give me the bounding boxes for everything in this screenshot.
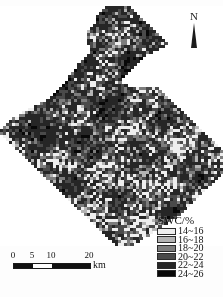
- legend-swatch-14-16: [157, 228, 176, 235]
- legend-swatch-24-26: [157, 270, 176, 277]
- scale-bar: 0 5 10 20 km: [13, 251, 123, 269]
- scale-tick-10: 10: [47, 251, 56, 260]
- legend-swatch-20-22: [157, 253, 176, 260]
- legend: SWC/% 14~16 16~18 18~20 20~22 22~24 24~2…: [157, 214, 223, 278]
- scale-segment-0-5: [14, 264, 33, 268]
- soil-water-content-map-figure: N SWC/% 14~16 16~18 18~20 20~22 22~24 24…: [0, 0, 223, 297]
- legend-swatch-18-20: [157, 245, 176, 252]
- scale-bar-ticks: 0 5 10 20: [13, 251, 123, 262]
- scale-segment-5-10: [33, 264, 52, 268]
- legend-label-24-26: 24~26: [178, 269, 203, 279]
- north-arrow-label: N: [183, 11, 205, 22]
- legend-swatch-16-18: [157, 236, 176, 243]
- scale-tick-0: 0: [11, 251, 16, 260]
- north-arrow-icon: [191, 23, 197, 48]
- scale-tick-5: 5: [30, 251, 35, 260]
- legend-swatch-22-24: [157, 262, 176, 269]
- scale-bar-unit: km: [93, 260, 106, 270]
- legend-item: 24~26: [157, 270, 223, 278]
- scale-segment-10-20: [52, 264, 90, 268]
- north-arrow: N: [183, 11, 205, 53]
- scale-bar-track: [13, 263, 91, 269]
